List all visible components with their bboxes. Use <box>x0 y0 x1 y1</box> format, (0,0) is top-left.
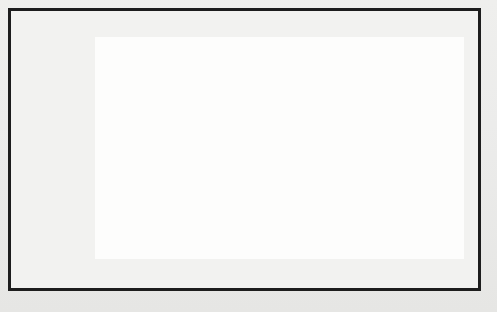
figure-root <box>0 0 497 312</box>
line-chart <box>0 0 497 312</box>
